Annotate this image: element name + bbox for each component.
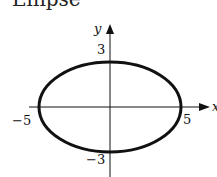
- x-axis-label: x: [212, 99, 217, 114]
- y-tick-neg3: −3: [86, 152, 105, 167]
- x-tick-5: 5: [183, 112, 191, 127]
- x-tick-neg5: −5: [12, 113, 31, 128]
- y-axis-arrow-icon: [106, 24, 114, 34]
- y-axis-label: y: [93, 21, 102, 36]
- y-tick-3: 3: [97, 42, 105, 57]
- ellipse-diagram: y x 3 −3 −5 5: [0, 0, 217, 177]
- x-axis-arrow-icon: [199, 103, 210, 111]
